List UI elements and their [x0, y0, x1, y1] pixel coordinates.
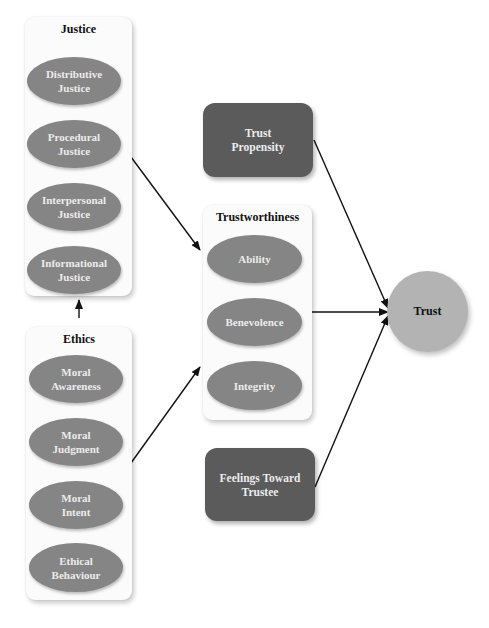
node-trust-propensity: Trust Propensity [203, 103, 313, 177]
arrow-justice-to-trustworthiness [131, 157, 200, 250]
node-moral-awareness: Moral Awareness [29, 355, 123, 403]
arrow-feelings-to-trust [315, 316, 388, 487]
node-distributive-justice: Distributive Justice [27, 57, 121, 105]
ethics-panel: Ethics Moral Awareness Moral Judgment Mo… [26, 327, 132, 600]
trustworthiness-title: Trustworthiness [203, 210, 312, 225]
node-interpersonal-justice: Interpersonal Justice [27, 183, 121, 231]
node-ethical-behaviour: Ethical Behaviour [29, 543, 123, 592]
justice-panel: Justice Distributive Justice Procedural … [25, 17, 132, 296]
arrow-propensity-to-trust [314, 140, 388, 308]
node-ability: Ability [207, 235, 302, 283]
node-moral-intent: Moral Intent [29, 481, 123, 529]
node-trust: Trust [387, 271, 468, 352]
node-informational-justice: Informational Justice [27, 246, 121, 294]
node-feelings-toward-trustee: Feelings Toward Trustee [205, 448, 315, 521]
justice-title: Justice [25, 22, 132, 37]
node-moral-judgment: Moral Judgment [29, 418, 123, 466]
node-benevolence: Benevolence [207, 298, 302, 346]
node-integrity: Integrity [207, 361, 302, 410]
ethics-title: Ethics [26, 332, 132, 347]
node-procedural-justice: Procedural Justice [27, 120, 121, 168]
arrow-ethics-to-trustworthiness [131, 367, 200, 463]
trustworthiness-panel: Trustworthiness Ability Benevolence Inte… [203, 205, 312, 420]
